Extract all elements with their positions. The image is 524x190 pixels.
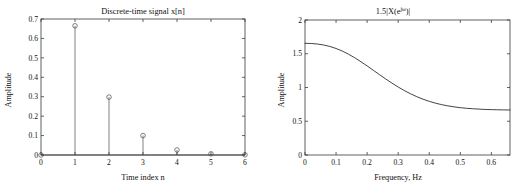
- y-tick-label: 0: [298, 151, 302, 160]
- magnitude-curve-path: [305, 43, 510, 110]
- figure-canvas: Discrete-time signal x[n] Time index n A…: [0, 0, 524, 190]
- magnitude-curve: [305, 43, 510, 110]
- x-tick-label: 2: [107, 158, 111, 167]
- y-tick-label: 0.2: [29, 112, 39, 121]
- x-tick-label: 6: [243, 158, 247, 167]
- y-tick-label: 2: [298, 16, 302, 25]
- x-axis-label: Time index n: [121, 173, 164, 182]
- chart-title: 1.5|X(ejω)|: [376, 6, 411, 16]
- chart-title: Discrete-time signal x[n]: [101, 7, 185, 16]
- plot-box: [305, 20, 510, 155]
- plot-frame: [305, 20, 510, 155]
- x-tick-label: 0.6: [487, 158, 497, 167]
- y-axis-ticks: 00.511.52: [293, 16, 511, 160]
- plot-frame: [41, 19, 245, 155]
- x-axis-label: Frequency, Hz: [374, 173, 422, 182]
- x-tick-label: 0: [303, 158, 307, 167]
- x-tick-label: 0.4: [424, 158, 434, 167]
- chart-panel-magnitude-spectrum: 1.5|X(ejω)| Frequency, Hz Amplitude 00.5…: [262, 0, 524, 190]
- y-axis-ticks: 00.10.20.30.40.50.60.7: [29, 15, 246, 160]
- y-tick-label: 0: [34, 151, 38, 160]
- y-tick-label: 0.5: [293, 117, 303, 126]
- x-tick-label: 5: [209, 158, 213, 167]
- x-tick-label: 0.3: [393, 158, 403, 167]
- y-tick-label: 0.1: [29, 131, 39, 140]
- y-tick-label: 0.5: [29, 54, 39, 63]
- x-tick-label: 0.1: [331, 158, 341, 167]
- x-tick-label: 3: [141, 158, 145, 167]
- x-tick-label: 0: [39, 158, 43, 167]
- discrete-time-signal-chart: Discrete-time signal x[n] Time index n A…: [0, 0, 262, 190]
- x-tick-label: 0.5: [456, 158, 466, 167]
- chart-title-prefix: 1.5|X(e: [376, 7, 401, 16]
- x-tick-label: 4: [175, 158, 179, 167]
- y-tick-label: 1: [298, 83, 302, 92]
- stem-series: [39, 24, 248, 158]
- x-tick-label: 0.2: [362, 158, 372, 167]
- y-tick-label: 0.6: [29, 34, 39, 43]
- y-tick-label: 0.7: [29, 15, 39, 24]
- y-tick-label: 1.5: [293, 49, 303, 58]
- x-tick-label: 1: [73, 158, 77, 167]
- x-axis-ticks: 00.10.20.30.40.50.6: [303, 20, 496, 167]
- magnitude-spectrum-chart: 1.5|X(ejω)| Frequency, Hz Amplitude 00.5…: [262, 0, 524, 190]
- y-tick-label: 0.4: [29, 73, 39, 82]
- chart-panel-discrete-time-signal: Discrete-time signal x[n] Time index n A…: [0, 0, 262, 190]
- plot-box: [41, 19, 245, 155]
- y-axis-label: Amplitude: [4, 72, 13, 107]
- y-axis-label: Amplitude: [277, 72, 286, 107]
- y-tick-label: 0.3: [29, 92, 39, 101]
- chart-title-suffix: )|: [406, 7, 411, 16]
